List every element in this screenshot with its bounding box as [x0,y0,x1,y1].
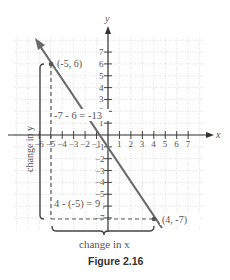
y-tick-label: −7 [95,213,105,223]
x-tick-label: 6 [174,139,179,149]
y-tick-label: −1 [95,142,105,152]
x-tick-label: 2 [128,139,133,149]
point-b-label: (4, -7) [162,214,187,226]
line-arrow-icon [35,38,45,50]
x-tick-label: 1 [117,139,122,149]
x-tick-label: 3 [140,139,145,149]
x-axis-arrow-icon [206,132,214,138]
y-tick-label: −4 [95,177,105,187]
change-in-x-brace [52,226,154,235]
x-tick-label: 7 [186,139,191,149]
point-a [49,62,54,67]
slope-figure: x y −6−5−4−3−2−112345677654321−1−2−3−4−5… [0,0,230,280]
y-axis-arrow-icon [105,26,111,34]
change-in-y-label: change in y [24,126,35,172]
x-tick-label: −3 [69,139,79,149]
point-b [152,217,157,222]
point-a-label: (-5, 6) [57,58,82,70]
y-axis-label: y [104,13,110,24]
y-tick-label: 3 [99,94,104,104]
x-tick-label: 5 [163,139,168,149]
change-in-x-label: change in x [79,238,130,250]
y-tick-label: −3 [95,166,105,176]
y-tick-label: 4 [99,83,104,93]
y-tick-label: 7 [99,47,104,57]
x-tick-label: −4 [57,139,67,149]
axes [8,30,210,232]
y-tick-label: 6 [99,59,104,69]
x-tick-label: −2 [80,139,90,149]
figure-caption: Figure 2.16 [88,255,144,267]
run-expression: 4 - (-5) = 9 [54,198,100,210]
x-axis-label: x [215,129,221,140]
x-tick-label: 4 [151,139,156,149]
y-tick-label: 5 [99,71,104,81]
rise-expression: -7 - 6 = -13 [54,110,102,121]
y-tick-label: −2 [95,154,105,164]
grid [15,38,204,229]
